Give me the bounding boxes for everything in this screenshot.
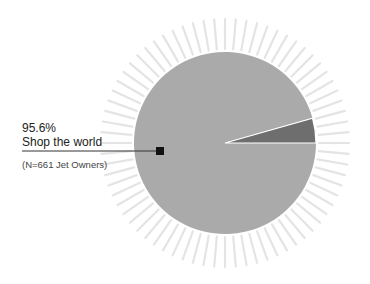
sample-size-note: (N=661 Jet Owners)	[22, 159, 107, 170]
slice-name-label: Shop the world	[22, 135, 102, 149]
leader-marker-square	[156, 147, 164, 155]
slice-percent-label: 95.6%	[22, 121, 56, 135]
